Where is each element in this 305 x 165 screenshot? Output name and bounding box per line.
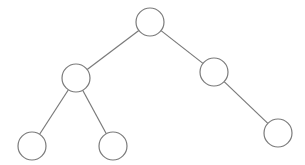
tree-edge-left-to-left-left bbox=[40, 90, 69, 134]
tree-node-right-right bbox=[264, 119, 292, 147]
tree-edge-left-to-left-right bbox=[83, 90, 107, 133]
tree-nodes bbox=[18, 8, 292, 160]
tree-node-root bbox=[136, 8, 164, 36]
tree-node-left bbox=[62, 64, 90, 92]
tree-node-left-left bbox=[18, 132, 46, 160]
tree-edge-root-to-left bbox=[87, 30, 139, 69]
tree-edge-right-to-right-right bbox=[224, 82, 268, 124]
tree-edge-root-to-right bbox=[161, 31, 203, 64]
binary-tree-diagram bbox=[0, 0, 305, 165]
tree-node-right bbox=[200, 58, 228, 86]
tree-node-left-right bbox=[99, 132, 127, 160]
